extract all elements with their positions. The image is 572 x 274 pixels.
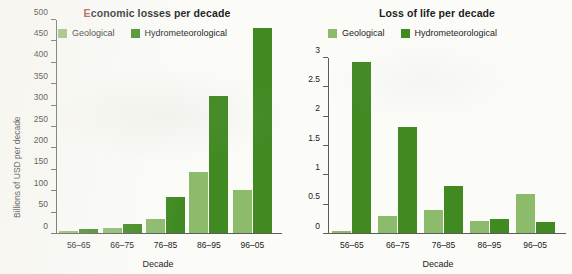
- x-axis-tick-labels-right: 56–6566–7576–8586–9596–05: [329, 234, 558, 250]
- x-axis-tick-label: 66–75: [375, 240, 421, 250]
- bar-geological: [516, 194, 535, 233]
- bar-hydrometeorological: [123, 224, 142, 233]
- y-axis-tick-label: 0.5: [308, 192, 320, 201]
- bar-group: [100, 20, 143, 233]
- chart-title-loss-of-life: Loss of life per decade: [286, 7, 572, 19]
- x-axis-tick-labels-left: 56–6566–7576–8586–9596–05: [57, 234, 274, 250]
- bar-group: [421, 58, 467, 233]
- bar-geological: [424, 210, 443, 233]
- bar-group: [375, 58, 421, 233]
- y-axis-tick-mark: [51, 147, 56, 148]
- y-axis-tick-label: 250: [34, 114, 48, 123]
- bar-hydrometeorological: [79, 229, 98, 233]
- bar-hydrometeorological: [536, 222, 555, 233]
- y-axis-tick-mark: [51, 40, 56, 41]
- y-axis-tick-mark: [51, 105, 56, 106]
- x-axis-tick-label: 76–85: [421, 240, 467, 250]
- bar-hydrometeorological: [209, 96, 228, 233]
- y-axis-tick-mark: [51, 212, 56, 213]
- x-axis-tick-label: 56–65: [57, 240, 100, 250]
- y-axis-tick-label: 450: [34, 29, 48, 38]
- y-axis-tick-label: 2: [315, 104, 320, 113]
- y-axis-tick-mark: [51, 19, 56, 20]
- panel-loss-of-life: Loss of life per decade Geological Hydro…: [286, 0, 572, 274]
- bar-hydrometeorological: [398, 127, 417, 233]
- y-axis-tick-mark: [323, 57, 328, 58]
- x-axis-tick-label: 86–95: [466, 240, 512, 250]
- x-axis-tick-label: 96–05: [231, 240, 274, 250]
- x-axis-label-left: Decade: [0, 259, 286, 269]
- y-axis-tick-label: 50: [39, 200, 48, 209]
- y-axis-tick-label: 0: [315, 221, 320, 230]
- bar-geological: [233, 190, 252, 233]
- bar-group: [231, 20, 274, 233]
- y-axis-tick-label: 100: [34, 178, 48, 187]
- bar-hydrometeorological: [490, 219, 509, 233]
- bar-geological: [59, 231, 78, 233]
- bar-hydrometeorological: [253, 28, 272, 233]
- bar-group: [329, 58, 375, 233]
- y-axis-tick-label: 0: [43, 221, 48, 230]
- y-axis-tick-mark: [51, 190, 56, 191]
- bar-group: [466, 58, 512, 233]
- y-axis-tick-mark: [51, 83, 56, 84]
- bar-hydrometeorological: [352, 62, 371, 233]
- bar-geological: [378, 216, 397, 233]
- bar-group-container-left: [57, 20, 274, 233]
- legend-swatch-geological-icon: [328, 29, 337, 38]
- chart-title-lead-glyph: E: [84, 7, 91, 19]
- y-axis-tick-mark: [323, 145, 328, 146]
- y-axis-tick-label: 300: [34, 93, 48, 102]
- bar-group: [512, 58, 558, 233]
- bar-hydrometeorological: [166, 197, 185, 233]
- y-axis-tick-mark: [51, 126, 56, 127]
- y-axis-tick-mark: [323, 204, 328, 205]
- y-axis-tick-mark: [323, 86, 328, 87]
- y-axis-tick-label: 150: [34, 157, 48, 166]
- y-axis-tick-label: 1: [315, 163, 320, 172]
- x-axis-tick-label: 76–85: [144, 240, 187, 250]
- legend-entry-hydrometeorological: Hydrometeorological: [401, 28, 498, 38]
- bar-geological: [470, 221, 489, 233]
- bar-geological: [146, 219, 165, 233]
- plot-area-economic-losses: 56–6566–7576–8586–9596–05 05010015020025…: [56, 20, 274, 234]
- x-axis-tick-label: 96–05: [512, 240, 558, 250]
- bar-group: [187, 20, 230, 233]
- two-panel-bar-chart-figure: Economic losses per decade Geological Hy…: [0, 0, 572, 274]
- y-axis-tick-mark: [51, 169, 56, 170]
- y-axis-tick-mark: [51, 62, 56, 63]
- x-axis-tick-label: 86–95: [187, 240, 230, 250]
- bar-geological: [332, 231, 351, 233]
- legend-loss-of-life: Geological Hydrometeorological: [328, 28, 497, 38]
- legend-label-hydrometeorological: Hydrometeorological: [415, 28, 498, 38]
- y-axis-tick-label: 350: [34, 71, 48, 80]
- y-axis-tick-label: 400: [34, 50, 48, 59]
- y-axis-tick-mark: [323, 116, 328, 117]
- legend-entry-geological: Geological: [328, 28, 385, 38]
- x-axis-tick-label: 56–65: [329, 240, 375, 250]
- y-axis-tick-mark: [323, 233, 328, 234]
- chart-title-text: conomic losses per decade: [91, 7, 231, 19]
- y-axis-tick-label: 3: [315, 45, 320, 54]
- y-axis-tick-mark: [51, 233, 56, 234]
- y-axis-tick-label: 200: [34, 136, 48, 145]
- y-axis-tick-label: 500: [34, 7, 48, 16]
- bar-group: [144, 20, 187, 233]
- bar-hydrometeorological: [444, 186, 463, 233]
- plot-area-loss-of-life: 56–6566–7576–8586–9596–05 00.511.522.53: [328, 58, 558, 234]
- x-axis-label-right: Decade: [286, 259, 572, 269]
- y-axis-tick-mark: [323, 174, 328, 175]
- y-axis-tick-label: 2.5: [308, 75, 320, 84]
- x-axis-tick-label: 66–75: [100, 240, 143, 250]
- legend-swatch-hydrometeorological-icon: [401, 29, 410, 38]
- bar-group: [57, 20, 100, 233]
- bar-group-container-right: [329, 58, 558, 233]
- bar-geological: [103, 228, 122, 233]
- y-axis-label-left: Billions of USD per decade: [12, 116, 22, 218]
- bar-geological: [189, 172, 208, 233]
- legend-label-geological: Geological: [342, 28, 385, 38]
- y-axis-tick-label: 1.5: [308, 133, 320, 142]
- panel-economic-losses: Economic losses per decade Geological Hy…: [0, 0, 286, 274]
